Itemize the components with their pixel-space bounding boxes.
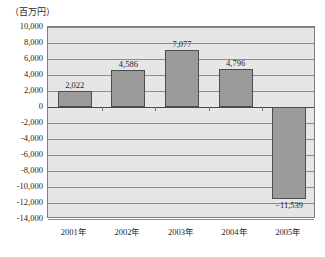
y-axis-tick-label: 6,000 [24, 53, 43, 63]
bars-layer: 2,0224,5867,0774,796−11,539 [48, 27, 314, 217]
bar-value-label: 4,586 [119, 59, 138, 69]
bar-group: 4,586 [102, 27, 156, 217]
bar-chart-figure: （百万円） 10,0008,0006,0004,0002,0000-2,000-… [0, 0, 325, 257]
y-axis-tick-label: -10,000 [17, 181, 43, 191]
x-axis-category-label: 2001年 [61, 226, 87, 238]
plot-area: 2,0224,5867,0774,796−11,539 [47, 26, 315, 218]
bar-value-label: −11,539 [275, 200, 303, 210]
y-axis-tick-label: -2,000 [21, 117, 43, 127]
bar-group: 4,796 [209, 27, 263, 217]
bar-group: 2,022 [48, 27, 102, 217]
x-axis-category-label: 2002年 [114, 226, 140, 238]
y-axis-tick-label: 4,000 [24, 69, 43, 79]
bar-value-label: 7,077 [172, 39, 191, 49]
bar-group: −11,539 [262, 27, 316, 217]
y-axis-tick-label: 2,000 [24, 85, 43, 95]
y-axis-tick-label: 10,000 [20, 21, 43, 31]
x-axis-category-label: 2005年 [275, 226, 301, 238]
bar [272, 107, 306, 199]
bar [111, 70, 145, 107]
bar [219, 69, 253, 107]
bar-group: 7,077 [155, 27, 209, 217]
bar-value-label: 4,796 [226, 58, 245, 68]
x-axis-category-label: 2003年 [168, 226, 194, 238]
unit-caption: （百万円） [10, 7, 55, 18]
y-axis-tick-label: -8,000 [21, 165, 43, 175]
y-axis-tick-label: -12,000 [17, 197, 43, 207]
gridline [48, 219, 314, 220]
y-axis-tick-label: -14,000 [17, 213, 43, 223]
y-axis-tick-label: -4,000 [21, 133, 43, 143]
x-axis: 2001年2002年2003年2004年2005年 [47, 226, 315, 242]
bar [165, 50, 199, 107]
y-axis: 10,0008,0006,0004,0002,0000-2,000-4,000-… [0, 26, 43, 218]
bar [58, 91, 92, 107]
y-axis-tick-label: -6,000 [21, 149, 43, 159]
y-axis-tick-label: 0 [39, 101, 43, 111]
y-axis-tick-label: 8,000 [24, 37, 43, 47]
x-axis-category-label: 2004年 [222, 226, 248, 238]
bar-value-label: 2,022 [65, 80, 84, 90]
